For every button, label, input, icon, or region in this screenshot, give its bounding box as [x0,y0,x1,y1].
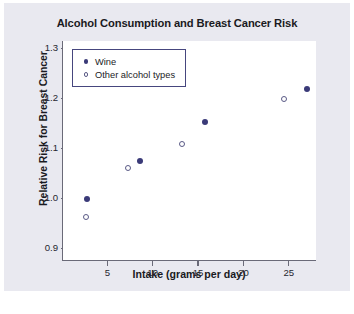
x-tick-label: 10 [143,267,163,278]
data-point-wine [137,158,143,164]
x-tick-label: 15 [188,267,208,278]
data-point-wine [304,86,310,92]
legend-item-label: Other alcohol types [95,70,175,80]
y-tick-label: 1.1 [45,142,58,153]
data-point-other-alcohol-types [179,141,185,147]
x-tick-mark [197,261,198,266]
x-tick-label: 25 [279,267,299,278]
x-tick-mark [107,261,108,266]
figure-panel: Alcohol Consumption and Breast Cancer Ri… [4,3,350,291]
y-tick-label: 1.3 [45,42,58,53]
legend-item-label: Wine [95,57,116,67]
x-tick-mark [288,261,289,266]
chart-legend: WineOther alcohol types [72,49,186,87]
legend-item: Wine [80,55,175,68]
data-point-other-alcohol-types [125,165,131,171]
legend-item: Other alcohol types [80,68,175,81]
y-tick-label: 1.2 [45,92,58,103]
x-tick-mark [243,261,244,266]
open-circle-icon [80,72,92,77]
x-tick-label: 5 [97,267,117,278]
data-point-other-alcohol-types [83,214,89,220]
y-tick-label: 1.0 [45,192,58,203]
x-tick-label: 20 [233,267,253,278]
filled-circle-icon [80,59,92,64]
data-point-wine [202,119,208,125]
data-point-wine [84,196,90,202]
chart-title: Alcohol Consumption and Breast Cancer Ri… [4,17,350,29]
x-tick-mark [152,261,153,266]
y-tick-label: 0.9 [45,242,58,253]
data-point-other-alcohol-types [281,96,287,102]
